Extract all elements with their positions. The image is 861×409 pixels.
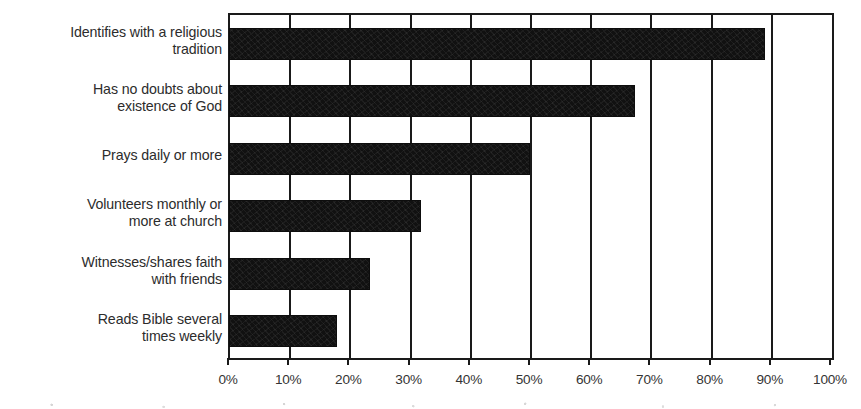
gridline-10 (289, 15, 291, 360)
x-tick-label: 90% (756, 372, 783, 387)
x-tick-label: 80% (696, 372, 723, 387)
gridline-80 (711, 15, 713, 360)
x-tick-10 (287, 358, 289, 365)
x-tick-70 (648, 358, 650, 365)
gridline-50 (530, 15, 532, 360)
gridline-70 (650, 15, 652, 360)
category-label: Witnesses/shares faith with friends (0, 254, 222, 288)
category-label: Reads Bible several times weekly (0, 311, 222, 345)
plot-area (228, 13, 834, 360)
category-label: Volunteers monthly or more at church (0, 196, 222, 230)
x-tick-label: 70% (636, 372, 663, 387)
category-label: Prays daily or more (0, 147, 222, 164)
gridline-40 (470, 15, 472, 360)
x-tick-label: 0% (218, 372, 237, 387)
x-tick-label: 100% (813, 372, 847, 387)
x-tick-50 (528, 358, 530, 365)
x-tick-60 (588, 358, 590, 365)
gridline-60 (590, 15, 592, 360)
x-tick-80 (709, 358, 711, 365)
x-tick-label: 20% (335, 372, 362, 387)
gridline-20 (349, 15, 351, 360)
x-tick-0 (227, 358, 229, 365)
bar (230, 259, 369, 289)
gridline-90 (771, 15, 773, 360)
bar (230, 144, 529, 174)
category-label: Identifies with a religious tradition (0, 24, 222, 58)
scan-artifact (0, 402, 861, 409)
x-axis-line (228, 358, 832, 360)
category-label: Has no doubts about existence of God (0, 81, 222, 115)
bar-chart: Identifies with a religious traditionHas… (0, 0, 861, 409)
x-tick-20 (347, 358, 349, 365)
x-tick-label: 30% (395, 372, 422, 387)
x-tick-40 (468, 358, 470, 365)
x-tick-100 (829, 358, 831, 365)
x-tick-label: 60% (576, 372, 603, 387)
x-tick-label: 40% (455, 372, 482, 387)
x-tick-label: 10% (275, 372, 302, 387)
bar (230, 201, 420, 231)
bar (230, 29, 764, 59)
gridline-30 (410, 15, 412, 360)
x-tick-90 (769, 358, 771, 365)
bar (230, 316, 336, 346)
bar (230, 86, 634, 116)
x-tick-30 (408, 358, 410, 365)
x-tick-label: 50% (516, 372, 543, 387)
category-axis-labels: Identifies with a religious traditionHas… (0, 13, 222, 358)
